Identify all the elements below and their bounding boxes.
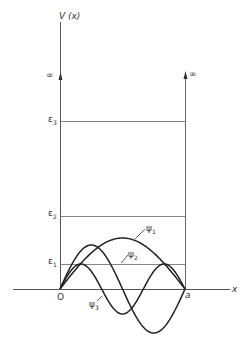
energy-label-1: ε1 bbox=[48, 256, 57, 268]
psi1-leader-line bbox=[135, 229, 145, 239]
well-width-label: a bbox=[185, 290, 191, 300]
psi3-leader-line bbox=[97, 296, 102, 301]
left-wall-arrow-icon bbox=[59, 72, 63, 80]
energy-label-2: ε2 bbox=[48, 208, 57, 220]
x-axis-label: x bbox=[231, 284, 238, 294]
energy-label-3: ε3 bbox=[48, 114, 57, 126]
psi2-leader-line bbox=[121, 255, 128, 263]
psi1-label: ψ1 bbox=[146, 223, 156, 235]
infinity-right-label: ∞ bbox=[189, 69, 197, 79]
infinite-well-diagram: V (x) ∞ ∞ ε3 ε2 ε1 ψ1 ψ2 ψ3 O a x bbox=[0, 0, 247, 342]
psi2-label: ψ2 bbox=[128, 249, 138, 261]
y-axis-label: V (x) bbox=[59, 11, 80, 21]
origin-label: O bbox=[57, 292, 64, 302]
wavefunction-psi-1 bbox=[60, 238, 185, 289]
right-wall-arrow-icon bbox=[184, 71, 188, 79]
infinity-left-label: ∞ bbox=[46, 70, 54, 80]
